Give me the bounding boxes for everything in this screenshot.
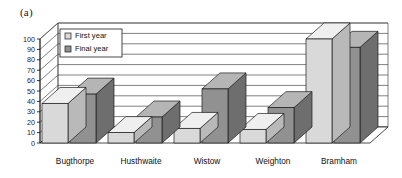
category-label-husthwaite: Husthwaite (120, 156, 161, 166)
legend-swatch (65, 33, 71, 39)
y-axis: 0102030405060708090100 (23, 35, 40, 148)
y-axis-tick-label: 20 (27, 118, 35, 127)
y-axis-tick-label: 30 (27, 107, 35, 116)
y-axis-tick-label: 60 (27, 76, 35, 85)
chart-canvas: 0102030405060708090100 BramhamWeightonWi… (0, 22, 402, 178)
y-axis-tick-label: 80 (27, 55, 35, 64)
y-axis-tick-label: 50 (27, 87, 35, 96)
y-axis-tick-label: 10 (27, 128, 35, 137)
category-label-bramham: Bramham (321, 156, 357, 166)
legend-swatch (65, 46, 71, 52)
y-axis-tick-label: 70 (27, 66, 35, 75)
y-axis-tick-label: 40 (27, 97, 35, 106)
category-label-weighton: Weighton (256, 156, 291, 166)
figure-label: (a) (20, 6, 33, 18)
bar-bramham-first-year (306, 23, 350, 143)
chart-legend[interactable]: First yearFinal year (60, 29, 122, 57)
legend-item-first-year[interactable]: First year (65, 31, 107, 40)
y-axis-tick-label: 0 (31, 139, 35, 148)
legend-label: Final year (75, 44, 109, 53)
category-axis-labels: BramhamWeightonWistowHusthwaiteBugthorpe (56, 156, 357, 166)
category-label-bugthorpe: Bugthorpe (56, 156, 95, 166)
legend-label: First year (75, 31, 107, 40)
bar-chart: 0102030405060708090100 BramhamWeightonWi… (0, 22, 402, 178)
category-label-wistow: Wistow (194, 156, 222, 166)
y-axis-tick-label: 90 (27, 45, 35, 54)
y-axis-tick-label: 100 (23, 35, 35, 44)
